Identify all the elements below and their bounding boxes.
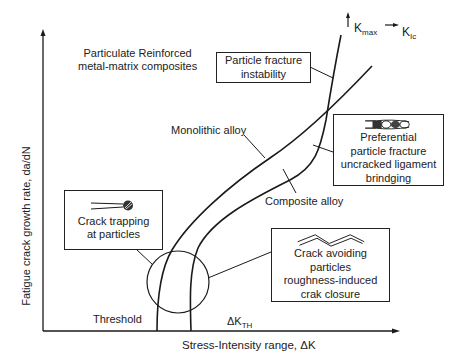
callout-crack-trapping: Crack trapping at particles (64, 190, 163, 250)
leader-composite-alloy (283, 169, 296, 193)
particle-chain-icon (361, 119, 417, 130)
kic-arrow-icon (385, 23, 399, 27)
kmax-label: Kmax (354, 22, 377, 39)
x-axis-arrow-icon (392, 329, 400, 334)
zigzag-crack-icon (291, 233, 371, 247)
threshold-label: Threshold (93, 313, 142, 326)
leader-monolithic-alloy (244, 135, 265, 158)
threshold-region-circle (147, 251, 209, 313)
delta-k-th-label: ΔKTH (227, 315, 252, 332)
x-axis-label: Stress-Intensity range, ΔK (182, 339, 316, 352)
callout-particle-fracture: Particle fracture instability (216, 52, 311, 83)
leader-crack-trapping (137, 250, 153, 265)
leader-particle-fracture (310, 67, 333, 78)
kic-label: KIc (402, 26, 416, 43)
title-line-2: metal-matrix composites (78, 60, 197, 73)
crack-particle-icon (89, 199, 139, 213)
leader-crack-avoiding (208, 252, 271, 278)
kmax-arrow-icon (346, 12, 350, 27)
figure-title: Particulate Reinforced metal-matrix comp… (78, 47, 197, 73)
y-axis-label: Fatigue crack growth rate, da/dN (20, 146, 32, 306)
callout-crack-avoiding: Crack avoiding particles roughness-induc… (271, 228, 390, 302)
fatigue-crack-growth-diagram: Particulate Reinforced metal-matrix comp… (0, 0, 467, 364)
leader-preferential-fracture (313, 145, 333, 152)
y-axis-arrow-icon (41, 29, 46, 36)
title-line-1: Particulate Reinforced (78, 47, 197, 60)
composite-alloy-label: Composite alloy (265, 195, 343, 208)
callout-preferential-fracture: Preferential particle fracture uncracked… (333, 114, 444, 186)
monolithic-alloy-label: Monolithic alloy (171, 124, 246, 137)
